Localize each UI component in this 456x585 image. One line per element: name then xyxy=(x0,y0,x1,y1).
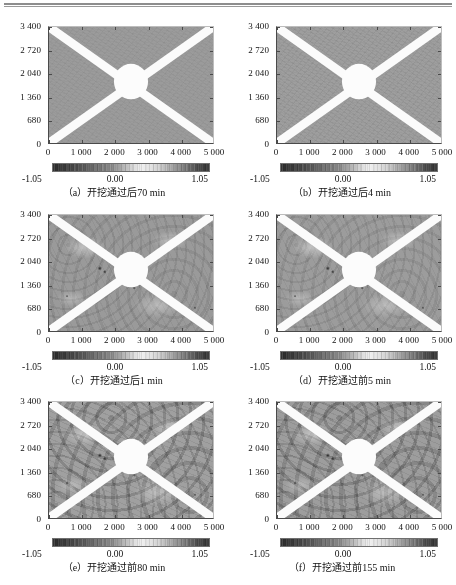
x-axis-tick xyxy=(82,402,83,405)
subplot-d: 06801 3602 0402 7203 40001 0002 0003 000… xyxy=(228,198,456,390)
colorbar xyxy=(280,538,438,547)
x-tick-label: 4 000 xyxy=(398,147,419,157)
x-axis-tick xyxy=(82,27,83,30)
x-axis-tick xyxy=(149,27,150,30)
subplot-e: 06801 3602 0402 7203 40001 0002 0003 000… xyxy=(0,385,228,577)
x-tick-label: 1 000 xyxy=(71,147,92,157)
y-tick-label: 680 xyxy=(255,491,269,500)
x-axis-tick xyxy=(410,140,411,143)
y-axis-tick xyxy=(49,473,52,474)
x-tick-label: 1 000 xyxy=(299,522,320,532)
header-rule xyxy=(4,3,452,7)
colorbar-gradient xyxy=(280,538,438,547)
x-axis-tick xyxy=(410,515,411,518)
y-tick-label: 3 400 xyxy=(20,397,41,406)
x-axis-tick xyxy=(377,215,378,218)
x-axis-labels: 01 0002 0003 0004 0005 000 xyxy=(48,522,214,534)
y-axis-tick xyxy=(277,262,280,263)
x-axis-tick xyxy=(310,515,311,518)
x-axis-labels: 01 0002 0003 0004 0005 000 xyxy=(276,335,442,347)
x-axis-tick xyxy=(82,215,83,218)
y-tick-label: 0 xyxy=(36,515,41,524)
x-tick-label: 3 000 xyxy=(365,522,386,532)
y-axis-tick xyxy=(49,74,52,75)
colorbar-tick-label: -1.05 xyxy=(22,549,42,560)
x-tick-label: 2 000 xyxy=(104,147,125,157)
y-tick-label: 3 400 xyxy=(248,22,269,31)
y-axis-tick xyxy=(49,286,52,287)
excavation-structure-overlay xyxy=(49,402,213,518)
x-axis-tick xyxy=(149,402,150,405)
colorbar-texture xyxy=(281,539,437,546)
y-tick-label: 680 xyxy=(27,116,41,125)
x-tick-label: 2 000 xyxy=(332,335,353,345)
subplot-f: 06801 3602 0402 7203 40001 0002 0003 000… xyxy=(228,385,456,577)
x-tick-label: 4 000 xyxy=(170,335,191,345)
x-tick-label: 4 000 xyxy=(170,147,191,157)
y-tick-label: 2 720 xyxy=(20,45,41,54)
y-axis-tick xyxy=(277,449,280,450)
x-axis-tick xyxy=(377,328,378,331)
y-axis-tick xyxy=(210,473,213,474)
x-axis-tick xyxy=(343,215,344,218)
y-tick-label: 2 720 xyxy=(248,233,269,242)
y-tick-label: 2 040 xyxy=(248,257,269,266)
colorbar-texture xyxy=(53,352,209,359)
y-axis-tick xyxy=(210,426,213,427)
y-tick-label: 2 720 xyxy=(20,420,41,429)
x-tick-label: 0 xyxy=(274,335,279,345)
y-axis-tick xyxy=(49,426,52,427)
excavation-structure-overlay xyxy=(49,27,213,143)
x-tick-label: 1 000 xyxy=(299,147,320,157)
x-axis-tick xyxy=(182,215,183,218)
colorbar-tick-label: 0.00 xyxy=(335,362,352,373)
y-axis-tick xyxy=(438,496,441,497)
x-axis-tick xyxy=(377,515,378,518)
x-axis-labels: 01 0002 0003 0004 0005 000 xyxy=(48,147,214,159)
x-axis-tick xyxy=(149,515,150,518)
x-tick-label: 3 000 xyxy=(365,335,386,345)
colorbar-texture xyxy=(281,164,437,171)
plot-area xyxy=(276,214,442,332)
x-axis-labels: 01 0002 0003 0004 0005 000 xyxy=(48,335,214,347)
x-tick-label: 3 000 xyxy=(137,147,158,157)
heatmap-field xyxy=(49,402,213,518)
x-axis-tick xyxy=(377,402,378,405)
x-tick-label: 4 000 xyxy=(398,335,419,345)
x-tick-label: 0 xyxy=(46,522,51,532)
y-axis-tick xyxy=(438,473,441,474)
x-tick-label: 3 000 xyxy=(137,522,158,532)
y-tick-label: 2 040 xyxy=(248,69,269,78)
colorbar-gradient xyxy=(280,351,438,360)
y-axis-tick xyxy=(210,27,213,28)
y-axis-tick xyxy=(210,449,213,450)
y-tick-label: 2 040 xyxy=(248,444,269,453)
x-tick-label: 5 000 xyxy=(204,335,225,345)
plot-area xyxy=(48,26,214,144)
x-tick-label: 0 xyxy=(274,522,279,532)
x-tick-label: 4 000 xyxy=(398,522,419,532)
y-axis-tick xyxy=(277,473,280,474)
x-tick-label: 0 xyxy=(274,147,279,157)
x-tick-label: 4 000 xyxy=(170,522,191,532)
y-axis-tick xyxy=(438,402,441,403)
x-axis-labels: 01 0002 0003 0004 0005 000 xyxy=(276,522,442,534)
y-axis-tick xyxy=(210,262,213,263)
y-tick-label: 1 360 xyxy=(20,280,41,289)
colorbar-tick-label: 0.00 xyxy=(107,174,124,185)
y-axis-tick xyxy=(438,239,441,240)
colorbar-tick-label: 1.05 xyxy=(419,362,436,373)
y-axis-tick xyxy=(438,309,441,310)
x-axis-tick xyxy=(149,328,150,331)
colorbar-gradient xyxy=(52,538,210,547)
y-axis-tick xyxy=(438,74,441,75)
colorbar xyxy=(280,351,438,360)
x-axis-tick xyxy=(82,140,83,143)
y-axis-tick xyxy=(210,215,213,216)
x-axis-tick xyxy=(410,27,411,30)
y-tick-label: 0 xyxy=(264,328,269,337)
x-axis-tick xyxy=(343,27,344,30)
x-tick-label: 2 000 xyxy=(104,335,125,345)
y-axis-tick xyxy=(438,27,441,28)
colorbar-tick-label: 1.05 xyxy=(191,549,208,560)
